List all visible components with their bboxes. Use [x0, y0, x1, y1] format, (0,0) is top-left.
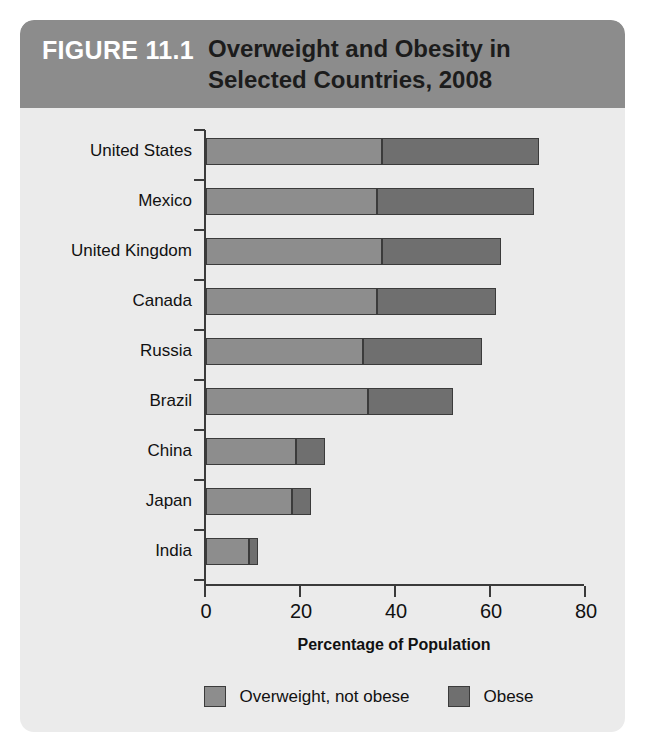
legend-label-overweight: Overweight, not obese [239, 687, 409, 707]
bar-segment-obese [368, 388, 454, 415]
legend-item-overweight: Overweight, not obese [204, 686, 410, 710]
y-axis-tick [194, 429, 205, 431]
y-axis-tick [194, 229, 205, 231]
bar-segment-overweight [206, 288, 377, 315]
chart-legend: Overweight, not obese Obese [204, 686, 604, 716]
y-axis-tick [194, 529, 205, 531]
legend-swatch-obese-icon [448, 686, 470, 707]
x-axis-tick [394, 586, 396, 597]
x-axis-tick-label: 60 [461, 600, 521, 623]
category-label: Japan [20, 491, 192, 511]
category-label: United States [20, 141, 192, 161]
bar-segment-obese [382, 138, 539, 165]
chart-category-row: Russia [20, 330, 625, 380]
bar-segment-obese [296, 438, 325, 465]
legend-item-obese: Obese [448, 686, 534, 710]
figure-title-line-2: Selected Countries, 2008 [208, 65, 608, 96]
figure-header-banner: FIGURE 11.1 Overweight and Obesity in Se… [20, 20, 625, 108]
y-axis-tick [194, 579, 205, 581]
chart-category-row: United States [20, 130, 625, 180]
bar-segment-overweight [206, 238, 382, 265]
bar-segment-overweight [206, 538, 249, 565]
chart-category-row: Japan [20, 480, 625, 530]
y-axis-tick [194, 329, 205, 331]
chart-category-row: Brazil [20, 380, 625, 430]
y-axis-tick [194, 479, 205, 481]
figure-number-label: FIGURE 11.1 [42, 36, 194, 65]
x-axis-tick [299, 586, 301, 597]
x-axis-title: Percentage of Population [204, 636, 584, 654]
bar-segment-obese [292, 488, 311, 515]
category-label: Brazil [20, 391, 192, 411]
chart-plot-area: United StatesMexicoUnited KingdomCanadaR… [20, 108, 625, 732]
y-axis-tick [194, 129, 205, 131]
chart-category-row: China [20, 430, 625, 480]
bar-segment-overweight [206, 138, 382, 165]
x-axis-tick-label: 0 [176, 600, 236, 623]
y-axis-tick [194, 279, 205, 281]
legend-label-obese: Obese [483, 687, 533, 707]
category-label: Russia [20, 341, 192, 361]
x-axis-tick-label: 80 [556, 600, 616, 623]
category-label: United Kingdom [20, 241, 192, 261]
x-axis-tick-label: 40 [366, 600, 426, 623]
figure-title-line-1: Overweight and Obesity in [208, 34, 608, 65]
y-axis-tick [194, 379, 205, 381]
legend-swatch-overweight-icon [204, 686, 226, 707]
x-axis-tick [204, 586, 206, 597]
bar-segment-obese [377, 288, 496, 315]
chart-category-row: Canada [20, 280, 625, 330]
chart-category-row: Mexico [20, 180, 625, 230]
category-label: China [20, 441, 192, 461]
chart-category-row: India [20, 530, 625, 580]
figure-title: Overweight and Obesity in Selected Count… [208, 34, 608, 95]
bar-segment-obese [249, 538, 259, 565]
x-axis-tick-label: 20 [271, 600, 331, 623]
bar-segment-overweight [206, 188, 377, 215]
bar-segment-obese [377, 188, 534, 215]
category-label: Canada [20, 291, 192, 311]
bar-segment-overweight [206, 388, 368, 415]
chart-category-row: United Kingdom [20, 230, 625, 280]
bar-segment-obese [363, 338, 482, 365]
category-label: India [20, 541, 192, 561]
x-axis-tick [489, 586, 491, 597]
x-axis-tick [584, 586, 586, 597]
category-label: Mexico [20, 191, 192, 211]
bar-segment-obese [382, 238, 501, 265]
bar-segment-overweight [206, 338, 363, 365]
figure-card: FIGURE 11.1 Overweight and Obesity in Se… [20, 20, 625, 732]
y-axis-tick [194, 179, 205, 181]
bar-segment-overweight [206, 438, 296, 465]
bar-segment-overweight [206, 488, 292, 515]
